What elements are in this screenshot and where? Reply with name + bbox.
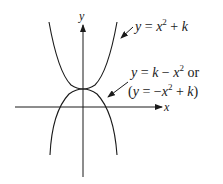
lower-label-arrow <box>108 82 128 97</box>
y-axis-label: y <box>78 9 85 23</box>
parabola-diagram: x y y = x2 + k y = k − x2 or (y = −x2 + … <box>0 0 223 184</box>
upper-equation-label: y = x2 + k <box>133 17 189 34</box>
lower-equation-label: y = k − x2 or <box>129 63 199 80</box>
x-axis-label: x <box>163 100 170 114</box>
upper-label-arrow <box>121 27 133 38</box>
lower-alt-equation-label: (y = −x2 + k) <box>128 82 199 100</box>
